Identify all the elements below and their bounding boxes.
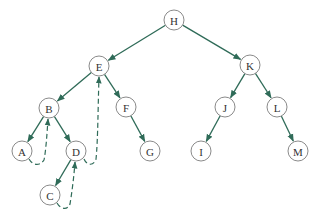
node-label: E <box>96 61 103 73</box>
edge-J-to-I <box>206 116 220 142</box>
node-B: B <box>39 98 59 118</box>
node-label: B <box>45 103 52 115</box>
tree-diagram: HEKBFJLADGIMC <box>0 0 326 222</box>
node-G: G <box>140 141 160 161</box>
node-label: J <box>223 102 228 114</box>
node-label: K <box>246 60 254 72</box>
node-M: M <box>288 141 308 161</box>
node-label: I <box>199 146 203 158</box>
edge-K-to-J <box>231 74 245 98</box>
node-label: F <box>123 102 129 114</box>
tree-edges <box>28 25 293 185</box>
edge-B-to-A <box>28 116 44 141</box>
node-label: M <box>293 146 303 158</box>
edge-B-to-D <box>54 116 70 141</box>
node-H: H <box>164 10 184 30</box>
edge-H-to-E <box>108 25 165 60</box>
node-label: C <box>46 190 53 202</box>
node-D: D <box>66 141 86 161</box>
edge-K-to-L <box>255 73 271 97</box>
node-label: A <box>18 146 26 158</box>
edge-D-to-C <box>56 160 71 186</box>
node-A: A <box>12 141 32 161</box>
node-J: J <box>215 97 235 117</box>
node-I: I <box>191 141 211 161</box>
edge-H-to-K <box>183 25 241 59</box>
node-C: C <box>40 185 60 205</box>
node-F: F <box>116 97 136 117</box>
edge-E-to-B <box>57 72 91 100</box>
edge-F-to-G <box>131 116 145 142</box>
tree-nodes: HEKBFJLADGIMC <box>12 10 308 205</box>
node-label: D <box>72 146 80 158</box>
node-label: H <box>170 15 178 27</box>
edge-E-to-F <box>104 74 119 97</box>
edge-L-to-M <box>281 116 293 141</box>
node-label: L <box>274 102 281 114</box>
thread-links <box>29 77 99 208</box>
node-K: K <box>240 55 260 75</box>
node-label: G <box>146 146 154 158</box>
node-E: E <box>89 56 109 76</box>
node-L: L <box>267 97 287 117</box>
